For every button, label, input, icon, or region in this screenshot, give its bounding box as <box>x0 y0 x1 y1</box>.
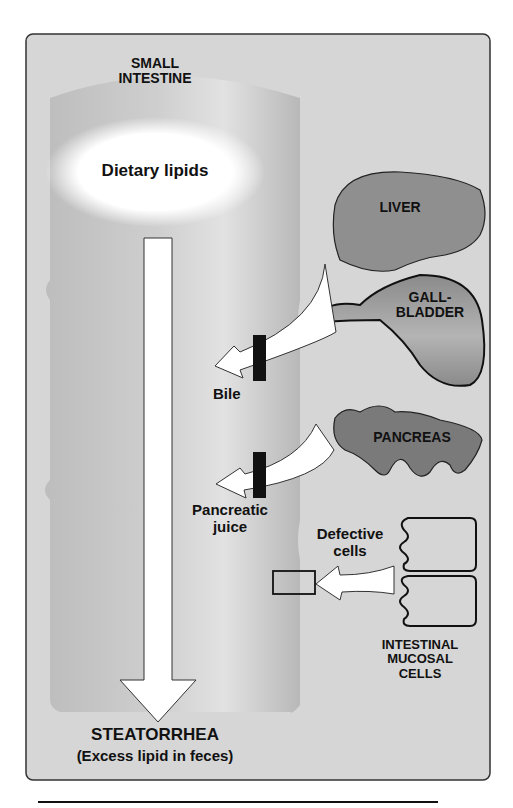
pancreatic-block-bar <box>253 452 266 498</box>
pancreatic-juice-line2: juice <box>180 519 280 536</box>
gallbladder-label: GALL- BLADDER <box>385 290 475 321</box>
bile-block-bar <box>253 335 266 381</box>
pancreas-label: PANCREAS <box>362 430 462 445</box>
mucosal-cells-label: INTESTINAL MUCOSAL CELLS <box>360 638 480 681</box>
diagram-canvas <box>0 0 513 808</box>
steatorrhea-subtitle: (Excess lipid in feces) <box>40 748 270 765</box>
defective-cells-line2: cells <box>300 543 400 560</box>
mucosal-line1: INTESTINAL <box>360 638 480 652</box>
liver-label: LIVER <box>370 200 430 215</box>
pancreatic-juice-label: Pancreatic juice <box>180 502 280 535</box>
small-intestine-line2: INTESTINE <box>100 71 210 86</box>
defective-cells-label: Defective cells <box>300 526 400 559</box>
defective-cells-line1: Defective <box>300 526 400 543</box>
dietary-lipids-label: Dietary lipids <box>80 162 230 181</box>
gallbladder-line1: GALL- <box>385 290 475 305</box>
gallbladder-line2: BLADDER <box>385 305 475 320</box>
small-intestine-label: SMALL INTESTINE <box>100 56 210 87</box>
small-intestine-line1: SMALL <box>100 56 210 71</box>
steatorrhea-title: STEATORRHEA <box>50 726 260 745</box>
pancreatic-juice-line1: Pancreatic <box>180 502 280 519</box>
mucosal-line3: CELLS <box>360 667 480 681</box>
mucosal-line2: MUCOSAL <box>360 652 480 666</box>
bile-label: Bile <box>213 386 253 403</box>
